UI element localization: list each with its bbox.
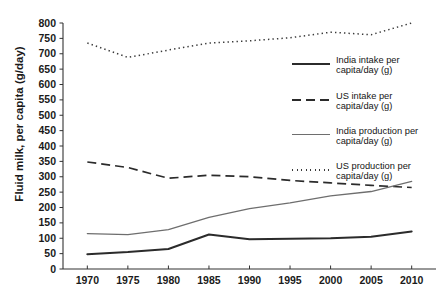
- line-chart: Fluid milk, per capita (g/day) 050100150…: [0, 0, 441, 303]
- legend-label-3: US production per capita/day (g): [336, 161, 411, 182]
- legend-label-0: India intake per capita/day (g): [336, 55, 400, 76]
- legend-label-2: India production per capita/day (g): [336, 126, 418, 147]
- plot-area: [0, 0, 441, 303]
- legend-swatch-2: [292, 134, 330, 135]
- legend-swatch-1: [292, 99, 330, 101]
- series-line-0: [87, 231, 411, 254]
- series-line-2: [87, 181, 411, 234]
- figure-caption: [22, 292, 422, 301]
- legend-label-1: US intake per capita/day (g): [336, 91, 392, 112]
- legend-swatch-0: [292, 63, 330, 65]
- series-line-3: [87, 23, 411, 57]
- legend-swatch-3: [292, 169, 330, 171]
